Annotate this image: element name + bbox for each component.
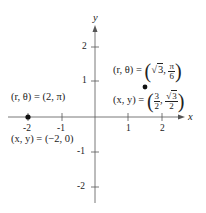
polar-label-point-1: (r, θ) = (2, π) xyxy=(11,92,65,103)
rect-label-point-2: (x, y) = (32, √32) xyxy=(113,91,184,111)
x-tick-label: 1 xyxy=(126,124,131,134)
polar-label-point-2: (r, θ) = (√3, π6) xyxy=(113,61,182,81)
point-2-pi xyxy=(25,114,30,119)
x-tick-label: 2 xyxy=(160,124,165,134)
x-axis-label: x xyxy=(188,112,193,123)
y-tick-label: -1 xyxy=(77,147,85,157)
y-tick-label: 2 xyxy=(82,42,87,52)
x-axis-arrow-icon xyxy=(178,115,185,120)
y-axis-arrow-icon xyxy=(93,25,98,32)
y-axis-label: y xyxy=(93,13,98,24)
rect-label-point-1: (x, y) = (−2, 0) xyxy=(11,134,74,145)
y-tick-label: -2 xyxy=(77,182,85,192)
y-tick-label: 1 xyxy=(82,76,87,86)
point-sqrt3-pi6 xyxy=(143,85,148,90)
